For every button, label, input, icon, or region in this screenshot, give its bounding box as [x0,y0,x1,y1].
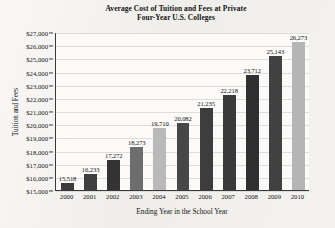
y-axis-tick-mark [49,111,53,112]
chart-title-line-2: Four-Year U.S. Colleges [52,13,300,22]
x-axis-tick-labels: 2000200120022003200420052006200720082009… [55,193,309,205]
y-axis-tick-label: $18,000 [26,148,48,155]
x-axis-tick-label: 2008 [245,193,258,200]
bar[interactable] [61,183,74,190]
plot-area: 15,51816,23317,27218,27319,71020,08221,2… [55,33,309,191]
bar-value-label: 16,233 [82,166,100,173]
bar-value-label: 25,143 [267,48,285,55]
bar[interactable] [107,160,120,190]
y-axis-tick-mark [49,59,53,60]
y-axis-tick-label: $21,000 [26,109,48,116]
bar-value-label: 17,272 [105,152,123,159]
bar-slot: 26,273 [287,33,310,190]
x-axis-tick-label: 2006 [198,193,211,200]
x-axis-tick-label: 2003 [129,193,142,200]
y-axis-tick-mark [49,151,53,152]
x-axis-tick-label: 2002 [106,193,119,200]
bar-value-label: 23,712 [243,67,261,74]
y-axis-tick-label: $23,000 [26,82,48,89]
y-axis-tick-label: $20,000 [26,122,48,129]
y-axis-tick-label: $17,000 [26,161,48,168]
bar-slot: 17,272 [102,33,125,190]
bar-slot: 15,518 [56,33,79,190]
y-axis-tick-label: $19,000 [26,135,48,142]
x-axis-tick-label: 2000 [60,193,73,200]
y-axis-tick-label: $24,000 [26,69,48,76]
bar[interactable] [130,147,143,190]
bar-slot: 16,233 [79,33,102,190]
y-axis-tick-mark [49,46,53,47]
y-axis-tick-label: $25,000 [26,56,48,63]
y-axis-tick-label: $16,000 [26,174,48,181]
x-axis-tick-label: 2010 [291,193,304,200]
y-axis-tick-mark [49,85,53,86]
bar-value-label: 21,235 [197,100,215,107]
bar[interactable] [223,95,236,190]
y-axis-tick-labels: $15,000$16,000$17,000$18,000$19,000$20,0… [0,33,53,191]
bar-series: 15,51816,23317,27218,27319,71020,08221,2… [56,33,309,190]
bar[interactable] [177,123,190,190]
y-axis-tick-mark [49,164,53,165]
x-axis-tick-label: 2005 [175,193,188,200]
x-axis-tick-label: 2004 [152,193,165,200]
bar-slot: 22,218 [218,33,241,190]
bar-slot: 25,143 [264,33,287,190]
chart-title-line-1: Average Cost of Tuition and Fees at Priv… [52,4,300,13]
bar-value-label: 22,218 [220,87,238,94]
y-axis-tick-mark [49,125,53,126]
y-axis-tick-mark [49,98,53,99]
y-axis-tick-label: $22,000 [26,95,48,102]
bar[interactable] [292,42,305,190]
bar-slot: 18,273 [125,33,148,190]
y-axis-tick-mark [49,177,53,178]
x-axis-tick-label: 2001 [83,193,96,200]
bar-value-label: 15,518 [59,175,77,182]
gridline [56,191,309,192]
bar-value-label: 20,082 [174,115,192,122]
x-axis-tick-label: 2007 [221,193,234,200]
x-axis-tick-label: 2009 [268,193,281,200]
bar[interactable] [200,108,213,190]
x-axis-title: Ending Year in the School Year [55,207,309,216]
bar-value-label: 18,273 [128,139,146,146]
bar-slot: 23,712 [241,33,264,190]
y-axis-tick-mark [49,72,53,73]
bar[interactable] [269,56,282,190]
bar[interactable] [153,128,166,190]
y-axis-tick-mark [49,32,53,33]
bar-slot: 19,710 [148,33,171,190]
bar-value-label: 26,273 [290,34,308,41]
bar[interactable] [84,174,97,190]
y-axis-tick-mark [49,138,53,139]
y-axis-tick-label: $27,000 [26,30,48,37]
bar-slot: 21,235 [195,33,218,190]
bar-value-label: 19,710 [151,120,169,127]
chart-title: Average Cost of Tuition and Fees at Priv… [52,4,300,23]
bar[interactable] [246,75,259,190]
chart-figure: Average Cost of Tuition and Fees at Priv… [0,0,335,228]
y-axis-tick-label: $26,000 [26,43,48,50]
bar-slot: 20,082 [171,33,194,190]
y-axis-tick-label: $15,000 [26,188,48,195]
y-axis-tick-mark [49,190,53,191]
